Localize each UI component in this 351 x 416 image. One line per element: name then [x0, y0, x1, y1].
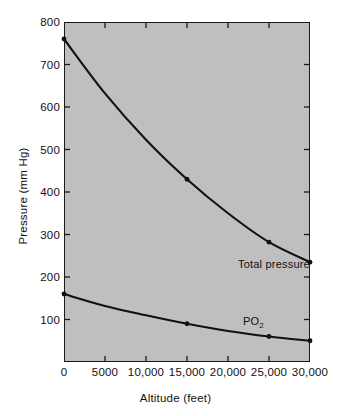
y-tick-label: 300: [26, 229, 60, 241]
y-tick-label: 700: [26, 59, 60, 71]
series-label-total-pressure: Total pressure: [238, 258, 310, 270]
y-tick-label: 600: [26, 101, 60, 113]
y-axis-title: Pressure (mm Hg): [17, 131, 29, 261]
x-tick-label: 15,000: [169, 366, 205, 378]
y-tick-label: 100: [26, 314, 60, 326]
plot-area: [64, 22, 310, 362]
series-label-po2: PO2: [243, 315, 264, 330]
x-tick-label: 10,000: [128, 366, 164, 378]
x-tick-label: 30,000: [292, 366, 328, 378]
po2-text: PO: [243, 315, 259, 327]
y-tick-label: 500: [26, 144, 60, 156]
x-tick-label: 0: [61, 366, 68, 378]
chart-figure: 100200300400500600700800 0500010,00015,0…: [0, 0, 351, 416]
x-axis-title: Altitude (feet): [0, 392, 351, 404]
po2-subscript: 2: [259, 321, 264, 330]
x-tick-label: 25,000: [251, 366, 287, 378]
y-tick-label: 400: [26, 186, 60, 198]
x-tick-label: 5000: [92, 366, 118, 378]
y-tick-label: 200: [26, 271, 60, 283]
x-axis-tick-labels: 0500010,00015,00020,00025,00030,000: [0, 366, 351, 386]
y-tick-label: 800: [26, 16, 60, 28]
x-tick-label: 20,000: [210, 366, 246, 378]
